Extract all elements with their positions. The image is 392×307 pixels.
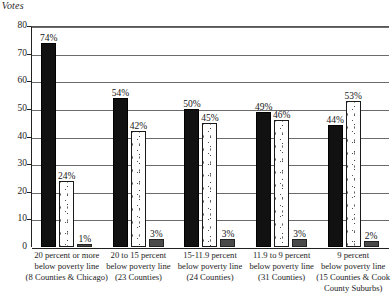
x-axis-label-line: below poverty line — [309, 261, 392, 272]
bar-value-label: 54% — [112, 88, 129, 98]
x-axis-label-line: County Suburbs) — [309, 283, 392, 294]
bar-group-2: 54%42%3% — [103, 26, 175, 247]
bar-value-label: 46% — [273, 110, 290, 120]
x-axis-labels: 20 percent or morebelow poverty line(8 C… — [31, 250, 389, 307]
bar-series-1-group-3[interactable]: 50% — [184, 109, 199, 247]
bar-group-5: 44%53%2% — [317, 26, 389, 247]
bar-series-1-group-1[interactable]: 74% — [41, 43, 56, 247]
bar-group-4: 49%46%3% — [246, 26, 318, 247]
bar-group-3: 50%45%3% — [174, 26, 246, 247]
bar-chart: f Votes 01020304050607080 74%24%1%54%42%… — [0, 0, 392, 307]
bar-series-2-group-5[interactable]: 53% — [346, 101, 361, 247]
bar-value-label: 3% — [150, 229, 163, 239]
y-axis-title: f Votes — [0, 0, 24, 11]
bar-value-label: 42% — [130, 121, 147, 131]
bar-value-label: 3% — [293, 229, 306, 239]
bar-series-2-group-2[interactable]: 42% — [131, 131, 146, 247]
bar-value-label: 2% — [365, 231, 378, 241]
bar-series-1-group-2[interactable]: 54% — [113, 98, 128, 247]
bar-value-label: 50% — [183, 99, 200, 109]
bar-series-1-group-5[interactable]: 44% — [328, 125, 343, 247]
bar-value-label: 74% — [40, 33, 57, 43]
bar-series-1-group-4[interactable]: 49% — [256, 112, 271, 247]
y-tick-label-50: 50 — [3, 104, 27, 114]
bar-series-2-group-1[interactable]: 24% — [59, 181, 74, 247]
bar-series-3-group-5[interactable]: 2% — [364, 241, 379, 247]
x-axis-label-line: (15 Counties & Cook — [309, 272, 392, 283]
gridline-0 — [32, 248, 389, 249]
bar-series-3-group-3[interactable]: 3% — [220, 239, 235, 247]
bar-series-3-group-4[interactable]: 3% — [292, 239, 307, 247]
bar-value-label: 53% — [344, 91, 361, 101]
bar-value-label: 45% — [201, 113, 218, 123]
bar-series-2-group-4[interactable]: 46% — [274, 120, 289, 247]
y-axis: 01020304050607080 — [0, 26, 27, 247]
y-tick-label-30: 30 — [3, 159, 27, 169]
bar-series-2-group-3[interactable]: 45% — [202, 123, 217, 247]
bar-series-3-group-2[interactable]: 3% — [149, 239, 164, 247]
bar-value-label: 24% — [58, 171, 75, 181]
y-tick-label-10: 10 — [3, 214, 27, 224]
y-tick-label-40: 40 — [3, 132, 27, 142]
bar-groups: 74%24%1%54%42%3%50%45%3%49%46%3%44%53%2% — [31, 26, 389, 247]
y-tick-label-70: 70 — [3, 49, 27, 59]
bar-value-label: 1% — [78, 234, 91, 244]
bar-value-label: 49% — [255, 102, 272, 112]
y-tick-label-80: 80 — [3, 21, 27, 31]
y-tick-label-20: 20 — [3, 187, 27, 197]
x-axis-label-5: 9 percentbelow poverty line(15 Counties … — [309, 250, 392, 294]
y-tick-label-60: 60 — [3, 76, 27, 86]
bar-value-label: 3% — [222, 229, 235, 239]
x-axis-label-line: 9 percent — [309, 250, 392, 261]
bar-series-3-group-1[interactable]: 1% — [77, 244, 92, 247]
bar-value-label: 44% — [326, 115, 343, 125]
bar-group-1: 74%24%1% — [31, 26, 103, 247]
